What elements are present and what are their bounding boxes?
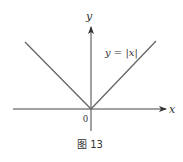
- function-label: y = |x|: [104, 47, 138, 59]
- graph-abs-x: y x 0 y = |x| 图 13: [0, 0, 183, 162]
- origin-label: 0: [83, 113, 88, 124]
- figure-caption: 图 13: [77, 139, 103, 150]
- x-axis-label: x: [169, 103, 176, 116]
- y-axis-label: y: [85, 10, 93, 23]
